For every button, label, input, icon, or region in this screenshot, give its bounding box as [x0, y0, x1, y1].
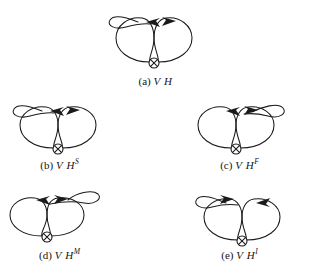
arrowhead-left: [220, 195, 234, 204]
left-loop-path: [198, 107, 236, 148]
caption-c-superscript: F: [254, 157, 259, 166]
caption-b: (b) V HS: [2, 160, 117, 171]
caption-d-superscript: M: [74, 247, 80, 256]
knot-diagram-e-canvas: [182, 186, 297, 248]
caption-d-symbol: V H: [55, 249, 74, 261]
caption-e-label: (e): [221, 249, 233, 261]
virtual-crossing-icon: [53, 144, 63, 154]
knot-diagram-c-canvas: [182, 96, 297, 158]
caption-e: (e) V HI: [182, 250, 297, 261]
knot-diagram-d-canvas: [2, 186, 117, 248]
caption-d: (d) V HM: [2, 250, 117, 261]
caption-e-superscript: I: [255, 247, 258, 256]
virtual-crossing-icon: [42, 232, 52, 242]
caption-b-label: (b): [40, 159, 53, 171]
arrowhead-left: [36, 196, 50, 205]
caption-a: (a) V H: [98, 76, 213, 87]
left-loop-path: [10, 198, 47, 236]
right-loop-path: [236, 107, 274, 148]
knot-diagram-d: [2, 186, 117, 248]
left-loop-path: [116, 18, 154, 62]
knot-diagram-a-canvas: [98, 6, 213, 74]
caption-b-superscript: S: [75, 157, 79, 166]
kink-curl-path: [196, 196, 238, 207]
knot-diagram-b-canvas: [2, 96, 117, 158]
knot-diagram-c: [182, 96, 297, 158]
figure-root: (a) V H (b) V HS: [0, 0, 311, 276]
virtual-crossing-icon: [149, 58, 159, 68]
caption-a-label: (a): [139, 75, 151, 87]
caption-b-symbol: V H: [56, 159, 75, 171]
virtual-crossing-icon: [237, 236, 247, 246]
caption-d-label: (d): [39, 249, 52, 261]
caption-e-symbol: V H: [236, 249, 255, 261]
caption-c-symbol: V H: [235, 159, 254, 171]
knot-diagram-a: [98, 6, 213, 74]
virtual-crossing-icon: [231, 144, 241, 154]
caption-c-label: (c): [220, 159, 232, 171]
caption-a-symbol: V H: [153, 75, 172, 87]
caption-c: (c) V HF: [182, 160, 297, 171]
right-loop-path: [58, 107, 96, 148]
knot-diagram-e: [182, 186, 297, 248]
knot-diagram-b: [2, 96, 117, 158]
right-loop-path: [154, 18, 192, 62]
right-loop-path: [242, 199, 280, 240]
